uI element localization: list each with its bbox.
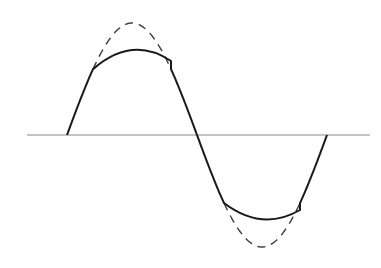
waveform-diagram (0, 0, 381, 268)
